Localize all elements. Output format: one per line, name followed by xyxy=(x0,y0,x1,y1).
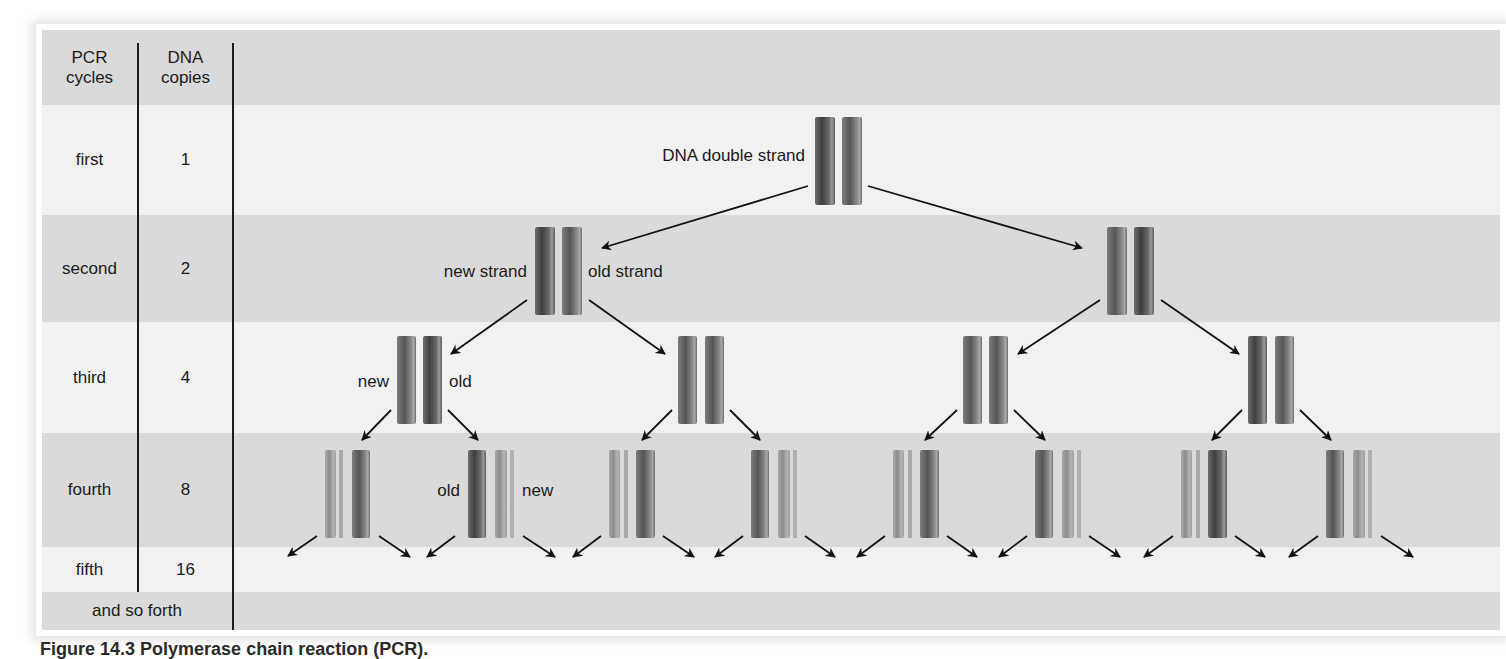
arrows-gen3-to-gen4 xyxy=(362,410,1331,440)
strand-pair-gen2-left xyxy=(535,227,582,315)
label-old-gen4: old xyxy=(437,481,460,500)
strand-pair-gen4-4 xyxy=(751,450,797,538)
strand-pair-gen4-1 xyxy=(325,450,370,538)
strand-pair-gen3-1 xyxy=(397,336,442,424)
strand-pair-gen2-right xyxy=(1107,227,1154,315)
label-new-gen4: new xyxy=(522,481,554,500)
strand-pair-gen3-2 xyxy=(678,336,724,424)
strand-pair-gen4-6 xyxy=(1035,450,1081,538)
strand-pair-gen1 xyxy=(815,117,862,205)
strand-pair-gen4-3 xyxy=(609,450,655,538)
strand-pair-gen4-5 xyxy=(893,450,939,538)
label-dna-double-strand: DNA double strand xyxy=(662,146,805,165)
strand-pair-gen4-2 xyxy=(468,450,514,538)
strand-pair-gen3-3 xyxy=(963,336,1008,424)
figure-number: Figure 14.3 xyxy=(40,639,135,659)
label-new-gen3: new xyxy=(358,372,390,391)
label-new-strand: new strand xyxy=(444,262,527,281)
strand-pair-gen4-7 xyxy=(1181,450,1227,538)
strand-pair-gen4-8 xyxy=(1326,450,1372,538)
figure-caption: Figure 14.3 Polymerase chain reaction (P… xyxy=(40,634,428,659)
strand-pair-gen3-4 xyxy=(1248,336,1294,424)
figure-title: Polymerase chain reaction (PCR). xyxy=(140,639,428,659)
arrows-gen4-to-gen5 xyxy=(288,536,1413,557)
label-old-gen3: old xyxy=(449,372,472,391)
label-old-strand: old strand xyxy=(588,262,663,281)
